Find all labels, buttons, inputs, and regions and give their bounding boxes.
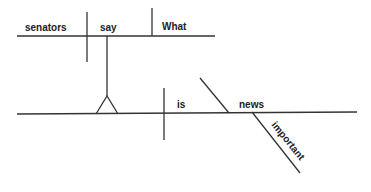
word-news: news [239,99,264,110]
sentence-diagram: senators say What is news important [0,0,371,192]
word-say: say [100,22,117,33]
predicate-slant [200,78,229,113]
word-is: is [177,99,186,110]
pedestal-legs [96,96,118,114]
word-senators: senators [25,22,67,33]
main-baseline [17,112,357,114]
word-what: What [162,21,187,32]
